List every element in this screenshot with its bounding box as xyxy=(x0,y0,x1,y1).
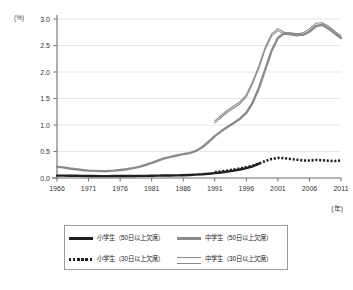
line-chart-svg: 0.00.51.01.52.02.53.0 196619711976198119… xyxy=(0,0,353,200)
chart-container: (%) (年) 0.00.51.01.52.02.53.0 1966197119… xyxy=(0,0,353,290)
svg-text:1981: 1981 xyxy=(144,185,160,192)
svg-text:0.5: 0.5 xyxy=(40,148,50,155)
legend-label: 中学生（30日以上欠席） xyxy=(205,256,272,262)
svg-text:1966: 1966 xyxy=(49,185,65,192)
x-axis-unit-label: (年) xyxy=(331,203,343,213)
svg-text:2.0: 2.0 xyxy=(40,69,50,76)
svg-text:1996: 1996 xyxy=(239,185,255,192)
plot-area: 0.00.51.01.52.02.53.0 196619711976198119… xyxy=(0,0,353,200)
svg-text:1976: 1976 xyxy=(112,185,128,192)
legend-item-chuugakusei-30: 中学生（30日以上欠席） xyxy=(177,249,285,270)
svg-text:1991: 1991 xyxy=(207,185,223,192)
svg-text:2.5: 2.5 xyxy=(40,42,50,49)
legend-label: 中学生（50日以上欠席） xyxy=(205,235,272,241)
legend-item-chuugakusei-50: 中学生（50日以上欠席） xyxy=(177,228,285,249)
legend-swatch-double-gray-icon xyxy=(177,255,201,264)
svg-text:0.0: 0.0 xyxy=(40,175,50,182)
legend-swatch-solid-gray-icon xyxy=(177,234,201,243)
svg-text:1971: 1971 xyxy=(81,185,97,192)
svg-text:3.0: 3.0 xyxy=(40,16,50,23)
svg-text:2006: 2006 xyxy=(302,185,318,192)
svg-text:2011: 2011 xyxy=(333,185,348,192)
legend-item-shougakusei-50: 小学生（50日以上欠席） xyxy=(69,228,177,249)
svg-text:1986: 1986 xyxy=(175,185,191,192)
legend-label: 小学生（50日以上欠席） xyxy=(97,235,164,241)
x-axis-tick-labels: 1966197119761981198619911996200120062011 xyxy=(49,185,348,192)
gridlines xyxy=(57,19,341,152)
legend-item-shougakusei-30: 小学生（30日以上欠席） xyxy=(69,249,177,270)
svg-text:1.5: 1.5 xyxy=(40,95,50,102)
svg-text:2001: 2001 xyxy=(270,185,286,192)
legend-label: 小学生（30日以上欠席） xyxy=(97,256,164,262)
svg-text:1.0: 1.0 xyxy=(40,122,50,129)
legend-swatch-solid-dark-icon xyxy=(69,234,93,243)
legend-swatch-dotted-dark-icon xyxy=(69,255,93,264)
chart-legend: 小学生（50日以上欠席） 中学生（50日以上欠席） 小学生（30日以上欠席） 中… xyxy=(64,225,288,270)
y-axis-tick-labels: 0.00.51.01.52.02.53.0 xyxy=(40,16,50,182)
axis-lines xyxy=(52,15,341,178)
